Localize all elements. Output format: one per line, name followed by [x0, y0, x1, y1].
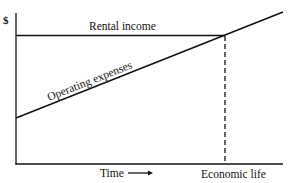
economic-life-diagram: $ Rental income Operating expenses Time … — [0, 0, 290, 183]
time-arrow-icon — [128, 171, 153, 176]
y-axis-label: $ — [3, 14, 9, 26]
economic-life-label: Economic life — [201, 168, 266, 180]
operating-expenses-label: Operating expenses — [45, 58, 134, 104]
x-axis-label: Time — [100, 167, 124, 179]
rental-income-label: Rental income — [89, 20, 156, 32]
